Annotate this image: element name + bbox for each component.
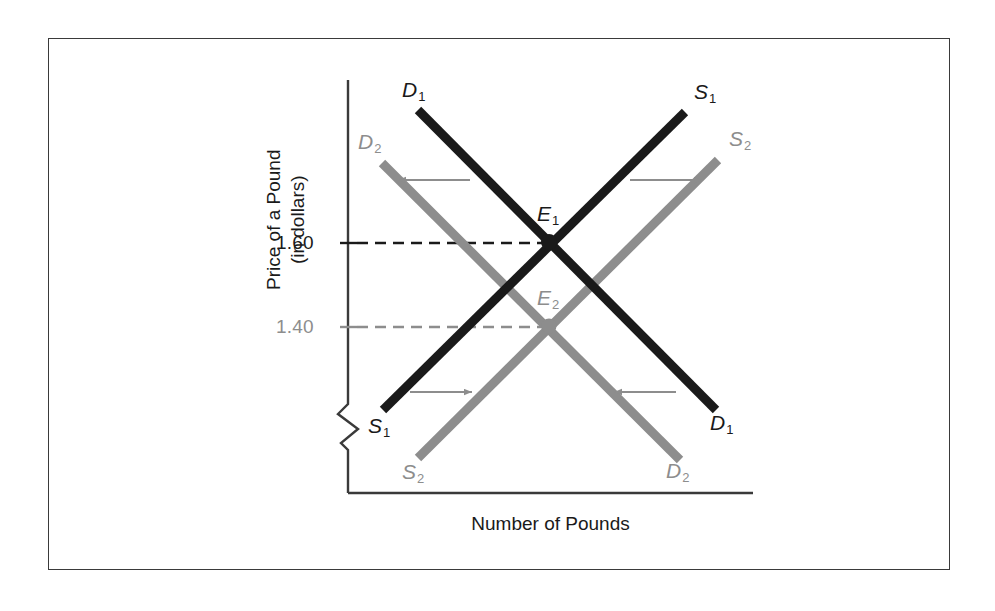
curve-label-d1-bottom-sub: 1: [726, 422, 733, 437]
equilibrium-label-e2-letter: E: [537, 286, 551, 309]
curve-label-d2-bottom: D2: [666, 460, 688, 481]
y-axis-break-zigzag: [338, 400, 358, 493]
y-axis-title-line1: Price of a Pound: [262, 105, 286, 335]
supply-curve-s2: [418, 160, 718, 458]
demand-curve-d2: [382, 163, 680, 460]
curve-label-d2-top: D2: [358, 131, 380, 152]
supply-curve-s1: [383, 112, 685, 410]
x-axis-title: Number of Pounds: [348, 513, 753, 535]
curve-label-d1-top: D1: [402, 79, 424, 100]
demand-curve-d1: [418, 110, 716, 410]
equilibrium-dot-e2: [542, 319, 557, 334]
equilibrium-label-e2: E2: [537, 287, 558, 308]
y-axis-title-line2: (in dollars): [286, 105, 310, 335]
curve-label-s1-top-sub: 1: [709, 91, 716, 106]
equilibrium-label-e2-sub: 2: [552, 297, 559, 312]
equilibrium-label-e1-letter: E: [537, 202, 551, 225]
equilibrium-dot-e1: [541, 234, 557, 250]
curve-label-d2-bottom-sub: 2: [682, 470, 689, 485]
curve-label-s1-top: S1: [694, 81, 715, 102]
curve-label-d2-top-sub: 2: [374, 141, 381, 156]
y-tick-label-160: 1.60: [276, 233, 314, 252]
curve-label-s2-bottom-letter: S: [402, 460, 416, 483]
equilibrium-label-e1: E1: [537, 203, 558, 224]
curve-label-s2-top: S2: [729, 128, 750, 149]
y-tick-label-140: 1.40: [276, 317, 314, 336]
curve-label-s1-bottom-letter: S: [368, 414, 382, 437]
curve-label-d2-bottom-letter: D: [666, 459, 681, 482]
curve-label-s1-bottom-sub: 1: [383, 425, 390, 440]
curve-label-d1-bottom: D1: [710, 412, 732, 433]
figure-root: Price of a Pound (in dollars) Number of …: [0, 0, 995, 611]
curve-label-s1-top-letter: S: [694, 80, 708, 103]
curve-label-d2-top-letter: D: [358, 130, 373, 153]
y-axis-title: Price of a Pound (in dollars): [262, 105, 310, 335]
equilibrium-label-e1-sub: 1: [552, 213, 559, 228]
curve-label-s2-top-letter: S: [729, 127, 743, 150]
curve-label-s2-bottom: S2: [402, 461, 423, 482]
curve-label-s1-bottom: S1: [368, 415, 389, 436]
curve-label-s2-bottom-sub: 2: [417, 471, 424, 486]
curve-label-d1-top-letter: D: [402, 78, 417, 101]
curve-label-d1-top-sub: 1: [418, 89, 425, 104]
curve-label-d1-bottom-letter: D: [710, 411, 725, 434]
curve-label-s2-top-sub: 2: [744, 138, 751, 153]
